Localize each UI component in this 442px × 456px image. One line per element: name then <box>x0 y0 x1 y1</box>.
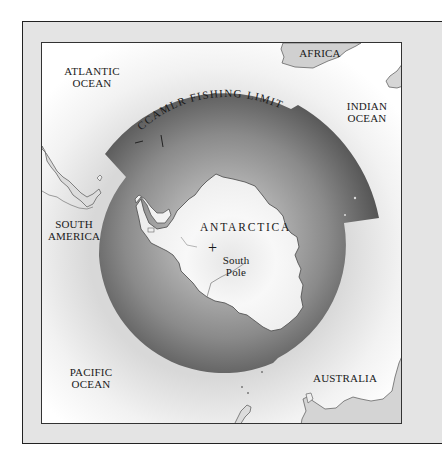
atlantic-ocean-label-line1: ATLANTIC <box>60 65 124 77</box>
south-pole-label-line2: Pole <box>218 266 254 278</box>
indian-ocean-label-line2: OCEAN <box>342 112 392 124</box>
ccamlr-fishing-limit-label: CCAMLR FISHING LIMIT <box>135 87 286 132</box>
south-pole-marker-icon: + <box>208 240 217 256</box>
south-america-label-line1: SOUTH <box>44 218 104 230</box>
antarctica-label: ANTARCTICA <box>200 221 291 233</box>
australia-label: AUSTRALIA <box>313 372 377 384</box>
south-pole-label: South Pole <box>218 254 254 278</box>
pacific-ocean-label: PACIFIC OCEAN <box>66 366 116 390</box>
pacific-ocean-label-line2: OCEAN <box>66 378 116 390</box>
africa-label: AFRICA <box>295 47 345 59</box>
south-america-label-line2: AMERICA <box>44 230 104 242</box>
south-america-label: SOUTH AMERICA <box>44 218 104 242</box>
atlantic-ocean-label-line2: OCEAN <box>60 77 124 89</box>
indian-ocean-label-line1: INDIAN <box>342 100 392 112</box>
indian-ocean-label: INDIAN OCEAN <box>342 100 392 124</box>
atlantic-ocean-label: ATLANTIC OCEAN <box>60 65 124 89</box>
south-pole-label-line1: South <box>218 254 254 266</box>
pacific-ocean-label-line1: PACIFIC <box>66 366 116 378</box>
